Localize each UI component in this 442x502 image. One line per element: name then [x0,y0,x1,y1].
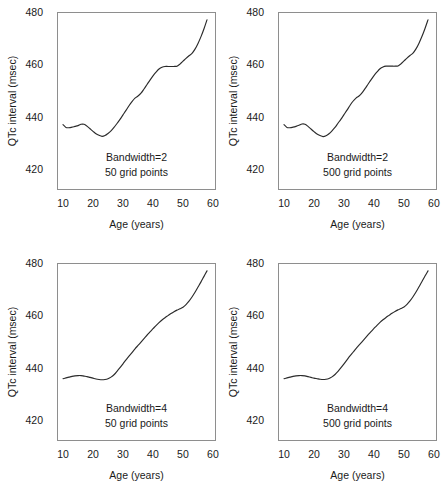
x-tick-label: 20 [301,449,327,460]
x-tick-mark [0,29,1,34]
x-axis-title: Age (years) [57,218,216,230]
x-axis-title: Age (years) [278,469,437,481]
panel-annotation-bandwidth: Bandwidth=4 [57,401,216,416]
x-tick-label: 10 [271,449,297,460]
x-tick-label: 30 [331,449,357,460]
x-tick-mark [221,280,222,285]
y-axis-title: QTc interval (msec) [6,12,20,190]
x-axis-title: Age (years) [278,218,437,230]
x-tick-label: 50 [391,449,417,460]
x-tick-label: 50 [170,198,196,209]
x-tick-label: 20 [301,198,327,209]
x-axis-title: Age (years) [57,469,216,481]
panel-annotation-bandwidth: Bandwidth=2 [278,150,437,165]
x-tick-label: 30 [331,198,357,209]
smoothed-curve [284,20,428,137]
x-tick-label: 40 [361,198,387,209]
x-tick-label: 30 [110,449,136,460]
smoothed-curve [63,271,207,380]
panel-bottom-right: 480 460 440 420 10 20 30 40 50 60 Age (y… [221,251,442,502]
panel-annotation-bandwidth: Bandwidth=2 [57,150,216,165]
x-tick-label: 50 [391,198,417,209]
x-tick-label: 60 [421,449,442,460]
figure-qtc-vs-age-panel-grid: 480 460 440 420 10 20 30 40 50 60 Age (y… [0,0,442,502]
x-tick-label: 40 [140,198,166,209]
panel-top-left: 480 460 440 420 10 20 30 40 50 60 Age (y… [0,0,221,251]
panel-bottom-left: 480 460 440 420 10 20 30 40 50 60 Age (y… [0,251,221,502]
x-tick-label: 40 [361,449,387,460]
x-tick-label: 30 [110,198,136,209]
panel-annotation-gridpoints: 50 grid points [57,165,216,180]
y-axis-title: QTc interval (msec) [227,263,241,441]
y-axis-title: QTc interval (msec) [6,263,20,441]
x-tick-label: 20 [80,198,106,209]
panel-annotation-gridpoints: 50 grid points [57,416,216,431]
smoothed-curve [284,271,428,380]
smoothed-curve [63,20,207,136]
y-axis-title: QTc interval (msec) [227,12,241,190]
panel-top-right: 480 460 440 420 10 20 30 40 50 60 Age (y… [221,0,442,251]
panel-annotation-gridpoints: 500 grid points [278,165,437,180]
x-tick-label: 10 [50,198,76,209]
x-tick-label: 60 [421,198,442,209]
panel-annotation-gridpoints: 500 grid points [278,416,437,431]
x-tick-label: 50 [170,449,196,460]
x-tick-mark [0,280,1,285]
x-tick-label: 20 [80,449,106,460]
x-tick-label: 40 [140,449,166,460]
x-tick-mark [221,29,222,34]
x-tick-label: 10 [50,449,76,460]
panel-annotation-bandwidth: Bandwidth=4 [278,401,437,416]
x-tick-label: 10 [271,198,297,209]
